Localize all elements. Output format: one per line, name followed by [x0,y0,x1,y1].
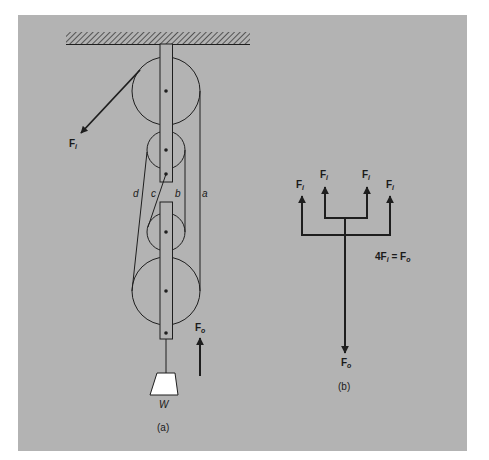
caption-b: (b) [338,381,350,392]
axle-pin [164,230,168,234]
figure-panel [18,15,467,451]
rope-label-b: b [175,188,181,199]
axle-pin [164,148,168,152]
lower-pulley-bracket [160,202,173,339]
pulley-system-figure: Fi d c b a Fo W (a) Fi Fi Fi Fi 4Fi = Fo… [0,0,489,460]
axle-pin [164,289,168,293]
axle-pin [164,89,168,93]
rope-label-c: c [151,188,156,199]
ceiling-hatch [66,32,250,44]
rope-label-a: a [202,188,208,199]
caption-a: (a) [157,422,169,433]
force-equation: 4Fi = Fo [375,251,411,263]
hook-pin [164,331,168,335]
upper-pulley-bracket [160,44,173,182]
rope-label-d: d [133,188,139,199]
weight-label: W [159,399,170,410]
